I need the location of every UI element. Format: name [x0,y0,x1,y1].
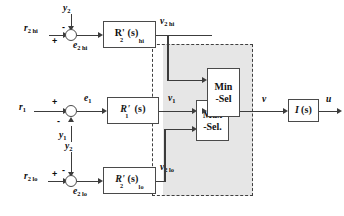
sign-plus-hi: + [52,37,57,46]
label-r1: r1 [19,103,26,113]
wire-y2-bottom [71,152,73,174]
plant-label: I [295,104,299,115]
wire-v2hi-seg2 [167,35,169,81]
wire-v2hi-seg3 [167,80,203,82]
min-selector-line2: -Sel [215,93,231,104]
wire-v2hi-seg1 [156,35,212,37]
label-v2lo: v2 lo [160,163,174,173]
controller-block-r2hi[interactable]: R'2(s)hi [103,21,156,48]
block-diagram-canvas: r2 hi + y2 - e2 hi R'2(s)hi v2 hi r1 + y… [0,0,344,216]
wire-r2lo [48,181,64,183]
wire-v1-into-max [159,111,193,113]
controller-r2hi-arg: (s) [127,27,138,38]
label-v: v [262,95,266,105]
wire-u-output [319,111,338,113]
controller-r2hi-sub2: hi [139,37,145,44]
controller-r1-sub: 1 [125,112,128,119]
label-e1: e1 [84,94,91,104]
sign-plus-main: + [52,98,57,107]
max-selector-line2: -Sel. [203,121,222,132]
label-e2hi: e2 hi [73,41,87,51]
min-selector-block[interactable]: Min -Sel [207,68,240,117]
sign-minus-main: - [57,117,60,126]
wire-min-output-v [240,111,284,113]
wire-v2lo-seg3 [164,129,193,131]
label-y2-bottom: y2 [65,142,72,152]
label-v2hi: v2 hi [160,17,174,27]
wire-e1 [77,111,103,113]
controller-r1-arg: (s) [135,103,146,114]
controller-r2lo-sub: 2 [120,182,123,189]
controller-r2hi-sub: 2 [120,36,123,43]
label-e2lo: e2 lo [73,187,87,197]
wire-r1 [34,111,64,113]
plant-arg: (s) [301,104,312,115]
controller-r2lo-arg: (s) [127,173,138,184]
controller-r2lo-sub2: lo [139,183,144,190]
sign-minus-hi: - [62,23,65,32]
wire-v2lo-seg2 [164,129,166,182]
sign-plus-lo: + [52,170,57,179]
sign-minus-lo: - [62,166,65,175]
label-r2lo: r2 lo [24,172,37,182]
summing-junction-main [65,105,77,117]
arrowhead-y1 [68,117,74,122]
arrowhead-u-output [337,108,342,114]
label-v1: v1 [168,94,175,104]
label-y1: y1 [59,131,66,141]
label-u: u [326,95,331,105]
controller-block-r2lo[interactable]: R'2(s)lo [103,167,156,194]
wire-y1 [71,126,73,142]
wire-e2lo [77,181,99,183]
label-r2hi: r2 hi [24,24,38,34]
label-y2-top: y2 [63,4,70,14]
wire-e2hi [77,35,99,37]
plant-block-I[interactable]: I(s) [288,99,319,122]
min-selector-line1: Min [215,81,233,92]
controller-block-r1[interactable]: R'1(s) [107,97,159,124]
